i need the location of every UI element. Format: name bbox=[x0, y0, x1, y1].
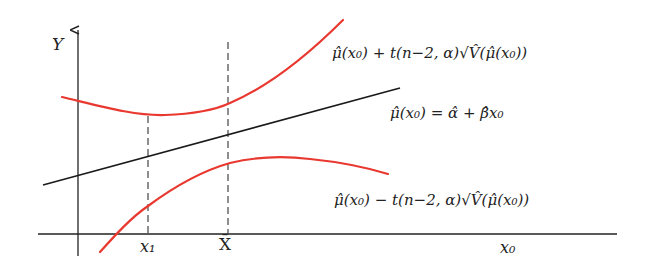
xbar-tick-label: X̄ bbox=[219, 236, 231, 253]
regression-formula: μ̂(x₀) = α̂ + β̂x₀ bbox=[390, 106, 503, 121]
confidence-band-diagram bbox=[0, 0, 665, 272]
x-axis-label: x₀ bbox=[500, 240, 515, 256]
upper-band-formula: μ̂(x₀) + t(n−2, α)√V̂(μ̂(x₀)) bbox=[332, 46, 527, 61]
x1-tick-label: x₁ bbox=[140, 239, 155, 255]
regression-line bbox=[43, 88, 400, 185]
y-axis-label: Y bbox=[52, 36, 63, 53]
upper-confidence-curve bbox=[62, 20, 343, 115]
lower-band-formula: μ̂(x₀) − t(n−2, α)√V̂(μ̂(x₀)) bbox=[334, 193, 529, 208]
